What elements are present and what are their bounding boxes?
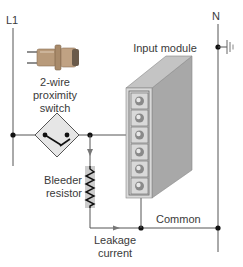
common-label: Common xyxy=(156,213,201,226)
wiring-diagram xyxy=(0,0,243,267)
leakage-arrow-icon xyxy=(113,226,120,231)
junction-dot xyxy=(215,225,220,230)
junction-dot xyxy=(10,132,15,137)
l1-label: L1 xyxy=(6,14,18,27)
current-arrow-icon xyxy=(87,149,93,156)
bleeder-label-line1: Bleeder xyxy=(30,174,82,187)
input-module xyxy=(126,56,192,198)
switch-label-line3: switch xyxy=(25,102,85,115)
n-label: N xyxy=(212,10,220,23)
resistor-icon xyxy=(85,166,95,208)
proximity-switch-icon xyxy=(27,45,79,70)
switch-symbol-icon xyxy=(35,113,79,157)
leakage-label-line2: current xyxy=(88,247,142,260)
switch-label-line2: proximity xyxy=(25,89,85,102)
module-label: Input module xyxy=(125,42,205,55)
switch-label-line1: 2-wire xyxy=(25,76,85,89)
leakage-label-line1: Leakage xyxy=(88,234,142,247)
bleeder-label-line2: resistor xyxy=(30,187,82,200)
